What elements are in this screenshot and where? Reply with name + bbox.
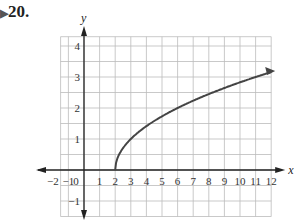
y-axis-label: y [80,11,87,25]
y-axis-down-arrow-icon [81,210,87,220]
function-graph: xy−2−10123456789101112−11234 [0,0,306,224]
x-axis-arrow-icon [275,167,285,173]
x-tick-label: 3 [128,175,134,187]
x-axis-label: x [287,163,294,177]
y-tick-label: 4 [75,40,81,52]
x-tick-label: 9 [222,175,228,187]
x-axis-left-arrow-icon [36,167,46,173]
x-tick-label: 5 [159,175,165,187]
y-tick-label: −1 [68,195,80,207]
x-tick-label: 7 [190,175,196,187]
y-axis-arrow-icon [81,26,87,36]
x-tick-label: 6 [175,175,181,187]
y-tick-label: 2 [75,102,81,114]
x-tick-label: 0 [73,175,79,187]
x-tick-label: 2 [112,175,118,187]
y-tick-label: 1 [75,133,81,145]
x-tick-label: 1 [97,175,103,187]
x-tick-label: 11 [250,175,261,187]
y-tick-label: 3 [75,71,81,83]
x-tick-label: 8 [206,175,212,187]
x-tick-label: −2 [47,175,59,187]
x-tick-label: 10 [235,175,247,187]
x-tick-label: 12 [266,175,277,187]
x-tick-label: 4 [144,175,150,187]
